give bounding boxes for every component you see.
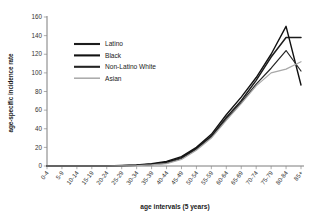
x-axis-tick-label: 35-39 [139, 169, 154, 186]
y-axis-tick-label: 80 [35, 88, 43, 95]
incidence-rate-line-chart: 020406080100120140160 0-45-910-1415-1920… [0, 0, 314, 217]
x-axis: 0-45-910-1415-1920-2425-2930-3435-3940-4… [39, 166, 304, 186]
y-axis-tick-label: 60 [35, 106, 43, 113]
series-line-latino [47, 37, 301, 166]
y-axis-tick-label: 20 [35, 144, 43, 151]
y-axis-tick-label: 140 [31, 32, 42, 39]
y-axis-tick-label: 0 [38, 162, 42, 169]
y-axis-tick-label: 40 [35, 125, 43, 132]
y-axis: 020406080100120140160 [31, 13, 47, 169]
legend-label-asian: Asian [105, 75, 122, 82]
legend-label-latino: Latino [105, 40, 123, 47]
x-axis-tick-label: 20-24 [95, 169, 110, 186]
y-axis-tick-label: 100 [31, 69, 42, 76]
x-axis-tick-label: 10-14 [65, 169, 80, 186]
legend-label-black: Black [105, 52, 122, 59]
x-axis-tick-label: 60-64 [214, 169, 229, 186]
y-axis-tick-label: 120 [31, 50, 42, 57]
y-axis-title: age-specific incidence rate [7, 53, 15, 133]
y-axis-tick-label: 160 [31, 13, 42, 20]
x-axis-tick-label: 50-54 [184, 169, 199, 186]
x-axis-tick-label: 25-29 [110, 169, 125, 186]
legend-label-non-latino-white: Non-Latino White [105, 63, 156, 70]
x-axis-tick-label: 40-44 [154, 169, 169, 186]
chart-canvas: 020406080100120140160 0-45-910-1415-1920… [0, 0, 314, 217]
x-axis-tick-label: 55-59 [199, 169, 214, 186]
x-axis-tick-label: 70-74 [244, 169, 259, 186]
series-lines [47, 26, 301, 166]
x-axis-tick-label: 15-19 [80, 169, 95, 186]
chart-legend: LatinoBlackNon-Latino WhiteAsian [74, 40, 156, 81]
x-axis-tick-label: 45-49 [169, 169, 184, 186]
x-axis-title: age intervals (5 years) [140, 203, 209, 211]
x-axis-tick-label: 85+ [292, 169, 304, 182]
x-axis-tick-label: 30-34 [125, 169, 140, 186]
series-line-black [47, 26, 301, 166]
x-axis-tick-label: 0-4 [39, 169, 50, 181]
x-axis-tick-label: 65-69 [229, 169, 244, 186]
x-axis-tick-label: 80-84 [274, 169, 289, 186]
x-axis-tick-label: 5-9 [54, 169, 65, 181]
x-axis-tick-label: 75-79 [259, 169, 274, 186]
